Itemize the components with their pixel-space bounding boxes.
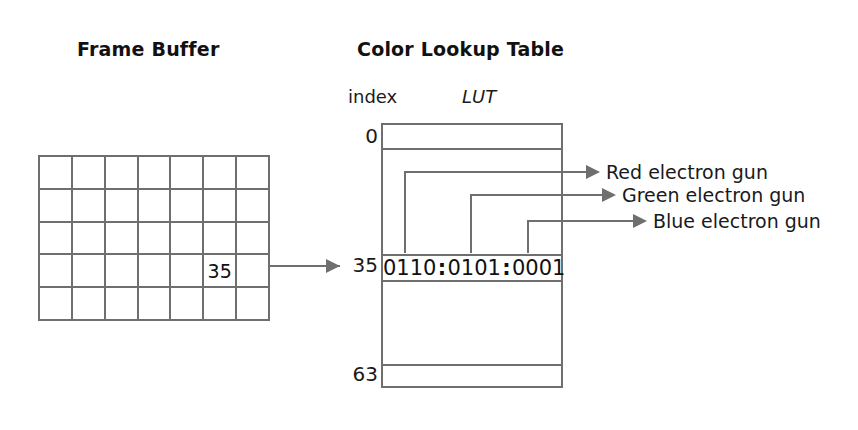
lut-row-index-35: 0110:0101:0001 <box>383 254 561 282</box>
lut-entry-green-bits: 0101 <box>447 256 500 280</box>
frame-buffer-cell <box>106 223 139 256</box>
frame-buffer-cell <box>171 157 204 190</box>
frame-buffer-cell <box>204 190 237 223</box>
lut-entry-separator-1: : <box>436 258 447 279</box>
frame-buffer-cell <box>73 255 106 288</box>
diagram-canvas: Frame Buffer Color Lookup Table index LU… <box>0 0 858 430</box>
lut-index-label-max: 63 <box>336 364 378 384</box>
frame-buffer-cell <box>237 255 270 288</box>
frame-buffer-cell <box>73 223 106 256</box>
lut-entry-separator-2: : <box>501 258 512 279</box>
frame-buffer-cell <box>40 190 73 223</box>
frame-buffer-cell <box>106 190 139 223</box>
green-gun-connector-horizontal <box>470 194 610 196</box>
blue-electron-gun-label: Blue electron gun <box>653 212 821 231</box>
frame-buffer-cell <box>73 157 106 190</box>
lut-row-index-63 <box>383 364 561 388</box>
green-gun-connector-vertical <box>470 194 472 253</box>
frame-buffer-cell <box>204 157 237 190</box>
frame-buffer-cell <box>237 223 270 256</box>
frame-buffer-cell <box>139 223 172 256</box>
frame-buffer-cell <box>237 288 270 321</box>
frame-buffer-grid: 35 <box>38 155 270 321</box>
frame-buffer-cell <box>171 288 204 321</box>
frame-buffer-cell <box>40 157 73 190</box>
blue-gun-connector-vertical <box>527 220 529 253</box>
green-gun-arrowhead <box>602 188 616 202</box>
red-gun-arrowhead <box>586 165 600 179</box>
frame-buffer-cell <box>106 157 139 190</box>
index-column-caption: index <box>348 86 397 107</box>
frame-buffer-cell <box>73 288 106 321</box>
blue-gun-connector-horizontal <box>527 220 641 222</box>
lut-index-label-min: 0 <box>336 126 378 146</box>
red-gun-connector-horizontal <box>404 171 594 173</box>
frame-buffer-cell <box>40 288 73 321</box>
green-electron-gun-label: Green electron gun <box>622 186 805 205</box>
frame-buffer-cell <box>237 190 270 223</box>
frame-buffer-cell <box>204 288 237 321</box>
frame-buffer-cell <box>204 223 237 256</box>
frame-buffer-cell <box>40 255 73 288</box>
red-electron-gun-label: Red electron gun <box>606 163 768 182</box>
color-lookup-table-title: Color Lookup Table <box>357 38 564 60</box>
frame-buffer-cell <box>237 157 270 190</box>
frame-buffer-cell <box>171 255 204 288</box>
lut-row-index-0 <box>383 125 561 150</box>
frame-buffer-cell <box>106 288 139 321</box>
frame-buffer-cell <box>106 255 139 288</box>
frame-buffer-pixel-value-cell: 35 <box>204 255 237 288</box>
lut-entry-blue-bits: 0001 <box>512 256 565 280</box>
frame-buffer-cell <box>139 190 172 223</box>
lut-index-label-selected: 35 <box>336 255 378 275</box>
frame-buffer-cell <box>40 223 73 256</box>
red-gun-connector-vertical <box>404 171 406 253</box>
frame-buffer-cell <box>171 190 204 223</box>
blue-gun-arrowhead <box>633 214 647 228</box>
frame-buffer-pixel-value: 35 <box>204 261 235 280</box>
lut-table: 0110:0101:0001 <box>381 123 563 388</box>
frame-buffer-title: Frame Buffer <box>77 38 219 60</box>
frame-buffer-cell <box>139 255 172 288</box>
frame-buffer-cell <box>171 223 204 256</box>
frame-buffer-cell <box>73 190 106 223</box>
lut-column-caption: LUT <box>462 86 496 107</box>
lut-entry-bits: 0110:0101:0001 <box>383 258 561 279</box>
lut-entry-red-bits: 0110 <box>383 256 436 280</box>
frame-buffer-cell <box>139 157 172 190</box>
frame-buffer-cell <box>139 288 172 321</box>
